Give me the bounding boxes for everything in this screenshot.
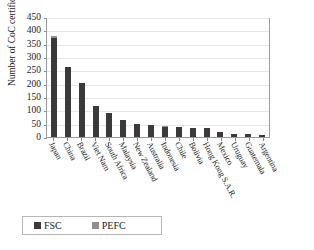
x-label-slot: Indonesia bbox=[158, 141, 172, 211]
bar-segment-fsc bbox=[106, 113, 112, 137]
x-label-slot: Hong Kong S.A.R. bbox=[200, 141, 214, 211]
bar-slot bbox=[172, 19, 186, 137]
bar-segment-fsc bbox=[231, 134, 237, 137]
bar-slot bbox=[144, 19, 158, 137]
legend-label-pefc: PEFC bbox=[102, 221, 126, 231]
y-tick-label: 350 bbox=[27, 40, 41, 50]
y-axis-tick-labels: 050100150200250300350400450 bbox=[0, 18, 44, 138]
bar-slot bbox=[130, 19, 144, 137]
bar-slot bbox=[47, 19, 61, 137]
legend-label-fsc: FSC bbox=[44, 221, 62, 231]
bar-slot bbox=[241, 19, 255, 137]
stacked-bar bbox=[93, 106, 99, 137]
y-tick-label: 450 bbox=[27, 13, 41, 23]
stacked-bar bbox=[217, 132, 223, 137]
stacked-bar bbox=[134, 124, 140, 137]
pefc-swatch bbox=[92, 222, 99, 229]
stacked-bar bbox=[162, 126, 168, 137]
bar-slot bbox=[61, 19, 75, 137]
bar-segment-fsc bbox=[134, 124, 140, 137]
bar-segment-fsc bbox=[190, 128, 196, 137]
bar-segment-fsc bbox=[51, 38, 57, 137]
y-tick-label: 0 bbox=[36, 133, 41, 143]
stacked-bar bbox=[120, 120, 126, 137]
bar-segment-fsc bbox=[245, 134, 251, 137]
x-label-slot: Malaysia bbox=[116, 141, 130, 211]
x-label-slot: Viet Nam bbox=[88, 141, 102, 211]
stacked-bar bbox=[204, 128, 210, 137]
x-label-slot: Australia bbox=[144, 141, 158, 211]
x-label-slot: Chile bbox=[172, 141, 186, 211]
stacked-bar bbox=[245, 134, 251, 137]
x-label-slot: Guatemala bbox=[242, 141, 256, 211]
bar-segment-fsc bbox=[120, 120, 126, 137]
y-tick-label: 200 bbox=[27, 80, 41, 90]
fsc-swatch bbox=[34, 222, 41, 229]
bar-segment-fsc bbox=[176, 127, 182, 137]
bar-slot bbox=[227, 19, 241, 137]
stacked-bar bbox=[148, 125, 154, 137]
y-tick-label: 150 bbox=[27, 93, 41, 103]
bar-series-group bbox=[47, 19, 269, 137]
legend-item-pefc: PEFC bbox=[92, 221, 126, 231]
bar-slot bbox=[200, 19, 214, 137]
stacked-bar bbox=[190, 128, 196, 137]
y-tick-label: 100 bbox=[27, 107, 41, 117]
stacked-bar bbox=[176, 127, 182, 137]
bar-slot bbox=[75, 19, 89, 137]
bar-segment-fsc bbox=[217, 132, 223, 137]
stacked-bar bbox=[259, 135, 265, 137]
x-tick-label: Argentina bbox=[257, 141, 279, 173]
stacked-bar bbox=[65, 67, 71, 137]
bar-segment-fsc bbox=[93, 106, 99, 137]
bar-segment-fsc bbox=[259, 135, 265, 137]
chart-figure: Number of CoC certificates 0501001502002… bbox=[0, 0, 314, 250]
bar-slot bbox=[103, 19, 117, 137]
x-label-slot: Argentina bbox=[256, 141, 270, 211]
y-tick-label: 300 bbox=[27, 53, 41, 63]
bar-slot bbox=[116, 19, 130, 137]
x-label-slot: Brazil bbox=[74, 141, 88, 211]
bar-segment-fsc bbox=[162, 127, 168, 137]
stacked-bar bbox=[231, 134, 237, 137]
y-tick-label: 250 bbox=[27, 67, 41, 77]
bar-slot bbox=[214, 19, 228, 137]
y-tick-label: 400 bbox=[27, 27, 41, 37]
stacked-bar bbox=[106, 113, 112, 137]
x-label-slot: China bbox=[60, 141, 74, 211]
x-axis-tick-labels: JapanChinaBrazilViet NamSouth AfricaMala… bbox=[46, 141, 270, 211]
plot-area bbox=[46, 18, 270, 138]
x-label-slot: South Africa bbox=[102, 141, 116, 211]
bar-segment-fsc bbox=[204, 128, 210, 137]
x-label-slot: Japan bbox=[46, 141, 60, 211]
bar-slot bbox=[158, 19, 172, 137]
stacked-bar bbox=[79, 83, 85, 137]
legend-item-fsc: FSC bbox=[34, 221, 62, 231]
bar-segment-fsc bbox=[79, 83, 85, 137]
bar-slot bbox=[255, 19, 269, 137]
stacked-bar bbox=[51, 36, 57, 137]
y-tick-label: 50 bbox=[32, 120, 42, 130]
bar-segment-fsc bbox=[65, 67, 71, 137]
x-label-slot: Mexico bbox=[214, 141, 228, 211]
x-label-slot: Bolivia bbox=[186, 141, 200, 211]
x-label-slot: New Zealand bbox=[130, 141, 144, 211]
x-label-slot: Uruguay bbox=[228, 141, 242, 211]
bar-slot bbox=[186, 19, 200, 137]
bar-segment-fsc bbox=[148, 125, 154, 137]
chart-legend: FSC PEFC bbox=[22, 216, 162, 235]
bar-slot bbox=[89, 19, 103, 137]
